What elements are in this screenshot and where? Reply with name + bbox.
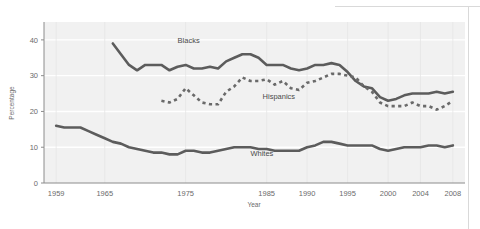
top-divider-rule <box>335 6 480 7</box>
y-axis-title: Percentage <box>8 86 16 120</box>
y-tick-label: 40 <box>30 36 38 45</box>
x-tick-label: 2008 <box>445 189 462 198</box>
x-tick-label: 1959 <box>48 189 65 198</box>
x-tick-label: 1965 <box>96 189 113 198</box>
y-tick-labels: 010203040 <box>30 36 38 188</box>
x-tick-label: 1990 <box>299 189 316 198</box>
right-divider-rule <box>468 6 469 229</box>
series-label-hispanics: Hispanics <box>263 92 296 101</box>
y-tick-label: 10 <box>30 143 38 152</box>
y-tick-label: 20 <box>30 107 38 116</box>
chart-figure: 010203040 195919651975198519901995200020… <box>0 0 480 229</box>
plot-background <box>44 22 465 183</box>
y-tick-label: 30 <box>30 71 38 80</box>
x-tick-label: 2004 <box>412 189 429 198</box>
x-tick-labels: 195919651975198519901995200020042008 <box>48 189 461 198</box>
y-tick-label: 0 <box>34 179 38 188</box>
series-label-whites: Whites <box>250 149 273 158</box>
line-chart: 010203040 195919651975198519901995200020… <box>0 0 480 229</box>
x-axis-title: Year <box>247 201 261 208</box>
x-tick-label: 1985 <box>258 189 275 198</box>
x-tick-label: 1995 <box>339 189 356 198</box>
series-label-blacks: Blacks <box>178 36 200 45</box>
x-tick-label: 2000 <box>380 189 397 198</box>
x-tick-label: 1975 <box>177 189 194 198</box>
